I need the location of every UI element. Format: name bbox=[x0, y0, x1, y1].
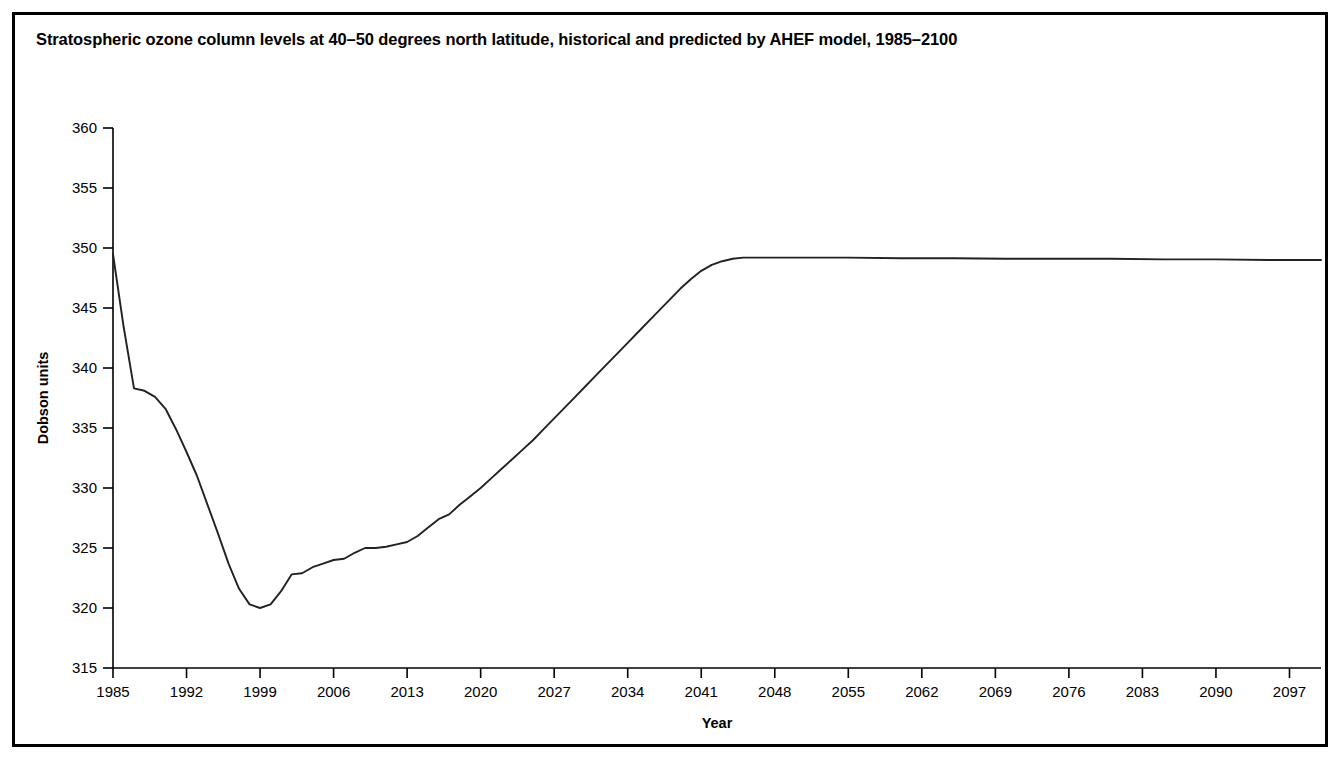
x-tick-labels: 1985199219992006201320202027203420412048… bbox=[96, 683, 1306, 700]
line-chart: 360 355 350 345 340 335 330 325 320 315 … bbox=[0, 0, 1340, 759]
x-tick-label: 1985 bbox=[96, 683, 129, 700]
x-tick-label: 2097 bbox=[1273, 683, 1306, 700]
y-tick-label: 335 bbox=[72, 419, 97, 436]
y-tick-label: 350 bbox=[72, 239, 97, 256]
x-tick-label: 2020 bbox=[464, 683, 497, 700]
x-tick-label: 2027 bbox=[537, 683, 570, 700]
x-tick-label: 2055 bbox=[832, 683, 865, 700]
x-tick-label: 2013 bbox=[390, 683, 423, 700]
x-tick-label: 1999 bbox=[243, 683, 276, 700]
y-tick-marks bbox=[103, 128, 113, 668]
x-tick-label: 2069 bbox=[979, 683, 1012, 700]
x-tick-label: 2062 bbox=[905, 683, 938, 700]
x-tick-label: 1992 bbox=[170, 683, 203, 700]
x-tick-label: 2083 bbox=[1126, 683, 1159, 700]
x-tick-label: 2041 bbox=[685, 683, 718, 700]
x-tick-label: 2048 bbox=[758, 683, 791, 700]
y-tick-label: 320 bbox=[72, 599, 97, 616]
y-tick-label: 360 bbox=[72, 119, 97, 136]
y-tick-label: 325 bbox=[72, 539, 97, 556]
x-axis-title: Year bbox=[702, 715, 733, 731]
x-tick-label: 2006 bbox=[317, 683, 350, 700]
y-tick-label: 355 bbox=[72, 179, 97, 196]
data-series-line bbox=[113, 254, 1321, 608]
x-tick-label: 2076 bbox=[1052, 683, 1085, 700]
y-tick-label: 330 bbox=[72, 479, 97, 496]
x-tick-label: 2090 bbox=[1199, 683, 1232, 700]
y-tick-labels: 360 355 350 345 340 335 330 325 320 315 bbox=[72, 119, 97, 676]
figure-container: Stratospheric ozone column levels at 40–… bbox=[0, 0, 1340, 759]
x-tick-label: 2034 bbox=[611, 683, 644, 700]
y-tick-label: 315 bbox=[72, 659, 97, 676]
x-tick-marks bbox=[113, 668, 1289, 678]
y-tick-label: 345 bbox=[72, 299, 97, 316]
y-tick-label: 340 bbox=[72, 359, 97, 376]
y-axis-title: Dobson units bbox=[35, 352, 51, 445]
